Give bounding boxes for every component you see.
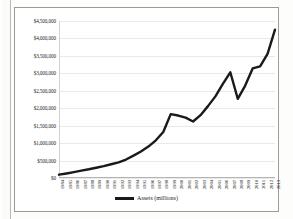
page-outer-margin — [0, 0, 2, 219]
gridline — [59, 178, 275, 179]
x-axis-tick-label: 1998 — [164, 180, 169, 189]
x-axis-tick-label: 2010 — [254, 180, 259, 189]
x-axis-tick-label: 2003 — [202, 180, 207, 189]
x-axis-tick-label: 2004 — [209, 180, 214, 189]
y-axis-tick-label: $4,500,000 — [34, 18, 56, 24]
x-axis-tick-label: 2008 — [239, 180, 244, 189]
x-axis-tick-label: 1989 — [97, 180, 102, 189]
x-axis-tick-label: 2013 — [276, 180, 281, 189]
x-axis-tick-label: 2002 — [194, 180, 199, 189]
x-axis-tick-label: 1996 — [150, 180, 155, 189]
y-axis-tick-label: $4,000,000 — [34, 35, 56, 41]
x-axis-tick-label: 1995 — [142, 180, 147, 189]
page-background: $4,500,000$4,000,000$3,500,000$3,000,000… — [0, 0, 293, 219]
series-line-assets — [59, 21, 275, 178]
x-axis-tick-label: 2012 — [269, 180, 274, 189]
x-axis-tick-label: 1987 — [83, 180, 88, 189]
y-axis-tick-label: $3,000,000 — [34, 70, 56, 76]
y-axis-tick-label: $2,500,000 — [34, 88, 56, 94]
x-axis-tick-label: 1985 — [68, 180, 73, 189]
y-axis-tick-label: $1,000,000 — [34, 140, 56, 146]
x-axis-tick-label: 1984 — [60, 180, 65, 189]
x-axis-tick-label: 2009 — [246, 180, 251, 189]
x-axis-tick-label: 1986 — [75, 180, 80, 189]
x-axis-tick-label: 1999 — [172, 180, 177, 189]
x-axis-tick-label: 1993 — [127, 180, 132, 189]
x-axis-tick-label: 1992 — [120, 180, 125, 189]
x-axis-tick-label: 1988 — [90, 180, 95, 189]
y-axis-tick-label: $500,000 — [37, 158, 56, 164]
x-axis-tick-label: 1991 — [112, 180, 117, 189]
x-axis-tick-label: 2011 — [261, 180, 266, 189]
legend-label-assets: Assets (millions) — [137, 195, 178, 202]
x-axis-tick-label: 2000 — [179, 180, 184, 189]
chart-inner: $4,500,000$4,000,000$3,500,000$3,000,000… — [15, 8, 278, 211]
y-axis-tick-label: $2,000,000 — [34, 105, 56, 111]
x-axis-tick-label: 1994 — [135, 180, 140, 189]
y-axis-tick-label: $0 — [51, 175, 56, 181]
x-axis-tick-label: 2006 — [224, 180, 229, 189]
x-axis-tick-label: 1990 — [105, 180, 110, 189]
chart-container[interactable]: $4,500,000$4,000,000$3,500,000$3,000,000… — [14, 7, 279, 212]
legend-swatch-assets — [115, 197, 134, 199]
y-axis-tick-label: $3,500,000 — [34, 53, 56, 59]
x-axis-tick-label: 2007 — [232, 180, 237, 189]
y-axis-tick-label: $1,500,000 — [34, 123, 56, 129]
plot-area: $4,500,000$4,000,000$3,500,000$3,000,000… — [59, 21, 275, 178]
x-axis-tick-label: 2001 — [187, 180, 192, 189]
x-axis-tick-label: 2005 — [217, 180, 222, 189]
x-axis-tick-label: 1997 — [157, 180, 162, 189]
chart-legend: Assets (millions) — [15, 195, 278, 202]
